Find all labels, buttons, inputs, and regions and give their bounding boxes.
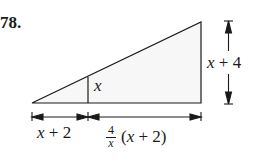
outer-triangle <box>32 22 201 103</box>
fraction-4-over-x: 4 x <box>106 125 116 149</box>
inner-height-label: x <box>94 76 102 96</box>
right-base-label: (x + 2) <box>121 127 166 147</box>
left-base-label: x + 2 <box>37 123 71 143</box>
outer-height-label: x + 4 <box>207 53 241 73</box>
base-dimension-arrows <box>32 112 201 121</box>
